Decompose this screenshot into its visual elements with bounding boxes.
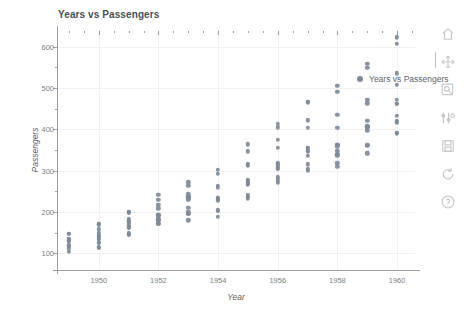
x-tick [218,31,219,35]
zoom-icon[interactable] [438,80,458,100]
data-point [216,215,220,219]
x-tick-minor [382,31,383,33]
gridline-horizontal [57,171,415,172]
data-point [365,101,369,105]
data-point [216,185,220,189]
data-point [395,35,399,39]
data-point [246,164,250,168]
y-axis-spine [57,26,58,274]
data-point [126,232,130,236]
data-point [276,146,280,150]
data-point [395,114,399,118]
data-point [216,171,220,175]
x-tick-label: 1960 [389,276,406,285]
y-tick-minor [55,233,57,234]
x-tick-label: 1952 [150,276,167,285]
data-point [276,180,280,184]
refresh-icon[interactable] [438,164,458,184]
data-point [67,231,71,235]
y-tick-label: 300 [41,166,54,175]
data-point [97,222,101,226]
y-tick-minor [55,191,57,192]
gridline-vertical [278,30,279,270]
x-tick-minor [173,31,174,33]
y-tick-minor [55,109,57,110]
x-tick-minor [352,31,353,33]
x-tick-minor [412,31,413,33]
x-axis-spine [53,270,420,271]
data-point [335,89,339,93]
plot-container: Passengers 100200300400500600 1950195219… [57,30,415,270]
data-point [186,218,190,222]
x-tick-minor [84,31,85,33]
page-title: Years vs Passengers [58,9,159,20]
data-point [365,151,369,155]
data-point [246,149,250,153]
data-point [97,245,101,249]
data-point [335,164,339,168]
data-point [126,210,130,214]
data-point [156,221,160,225]
x-tick [397,31,398,35]
data-point [246,142,250,146]
data-point [276,138,280,142]
data-point [305,154,309,158]
x-tick-minor [308,31,309,33]
gridline-vertical [218,30,219,270]
y-tick-minor [55,67,57,68]
x-tick-label: 1958 [329,276,346,285]
x-tick-minor [129,31,130,33]
gridline-horizontal [57,212,415,213]
x-tick-minor [248,31,249,33]
toolbar-separator [435,52,436,68]
move-icon[interactable] [438,52,458,72]
x-tick-minor [203,31,204,33]
gridline-horizontal [57,88,415,89]
plot-area[interactable] [57,30,415,270]
legend-marker-icon [357,76,363,82]
y-tick-label: 500 [41,83,54,92]
configure-subplots-icon[interactable] [438,108,458,128]
data-point [365,129,369,133]
x-axis-title: Year [57,292,415,302]
x-tick-minor [69,31,70,33]
chart-screenshot: Years vs Passengers Passengers 100200300… [0,0,469,319]
x-tick [99,31,100,35]
x-tick-label: 1954 [210,276,227,285]
gridline-vertical [158,30,159,270]
gridline-horizontal [57,129,415,130]
data-point [395,102,399,106]
data-point [365,61,369,65]
y-tick-label: 400 [41,125,54,134]
x-tick-minor [114,31,115,33]
save-icon[interactable] [438,136,458,156]
x-tick-minor [233,31,234,33]
data-point [335,144,339,148]
x-tick-minor [293,31,294,33]
data-point [365,119,369,123]
data-point [395,131,399,135]
x-tick-minor [367,31,368,33]
gridline-horizontal [57,47,415,48]
x-tick-minor [263,31,264,33]
y-tick-label: 100 [41,249,54,258]
chart-toolbar[interactable] [433,24,463,212]
data-point [156,197,160,201]
data-point [335,113,339,117]
y-tick-label: 200 [41,208,54,217]
x-tick-minor [188,31,189,33]
data-point [365,66,369,70]
x-tick-minor [144,31,145,33]
gridline-vertical [397,30,398,270]
data-point [156,192,160,196]
home-icon[interactable] [438,24,458,44]
data-point [305,118,309,122]
y-axis-title: Passengers [30,128,40,173]
x-tick [337,31,338,35]
gridline-horizontal [57,253,415,254]
help-icon[interactable] [438,192,458,212]
x-tick-label: 1956 [269,276,286,285]
x-tick-label: 1950 [90,276,107,285]
x-tick [158,31,159,35]
data-point [156,206,160,210]
